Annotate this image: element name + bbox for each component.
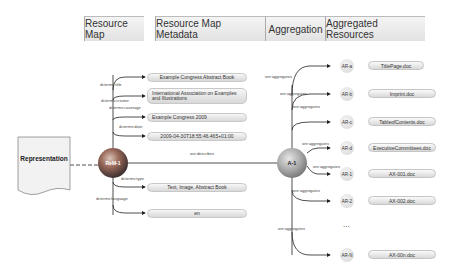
predicate-type: dcterms:type <box>121 177 144 181</box>
metadata-value-creator: International Association on Examples an… <box>147 88 247 104</box>
resource-file-ar-b[interactable]: Imprint.doc <box>368 89 436 98</box>
ellipsis: ... <box>343 220 350 229</box>
predicate-coverage: dcterms:coverage <box>109 106 141 110</box>
resource-file-ar-1[interactable]: AX-001.doc <box>368 169 436 178</box>
metadata-value-type: Text, Image, Abstract Book <box>147 183 247 192</box>
resource-file-ar-2[interactable]: AX-002.doc <box>368 196 436 205</box>
aggregates-label-2: ore:aggregates <box>293 189 320 193</box>
predicate-language: dcterms:language <box>96 197 128 201</box>
resource-map-node[interactable]: ReM-1 <box>98 148 128 178</box>
aggregates-label-b: ore:aggregates <box>280 92 307 96</box>
aggregation-node-label: A-1 <box>288 160 297 166</box>
aggregation-node[interactable]: A-1 <box>277 148 307 178</box>
resource-node-ar-1[interactable]: AR-1 <box>340 167 354 181</box>
aggregates-label-c: ore:aggregates <box>293 105 320 109</box>
representation-label: Representation <box>18 155 70 162</box>
predicate-date: dcterms:date <box>119 125 142 129</box>
resource-file-ar-d[interactable]: ExecutiveCommittees.doc <box>368 143 436 152</box>
aggregates-label-a: ore:aggregates <box>265 75 292 79</box>
resource-file-ar-a[interactable]: TitlePage.doc <box>368 61 424 70</box>
resource-node-ar-n[interactable]: AR-N <box>340 248 354 262</box>
aggregates-label-1: ore:aggregates <box>313 165 340 169</box>
aggregates-label-n: ore:aggregates <box>278 227 305 231</box>
resource-node-ar-c[interactable]: AR-c <box>340 115 354 129</box>
aggregates-label-d: ore:aggregates <box>302 142 329 146</box>
describes-label: ore:describes <box>190 152 214 156</box>
resource-node-ar-2[interactable]: AR-2 <box>340 194 354 208</box>
resource-file-ar-c[interactable]: TableofContents.doc <box>368 117 436 126</box>
resource-node-ar-d[interactable]: AR-d <box>340 141 354 155</box>
metadata-value-date: 2009-04-30T18:55:46.465+01:00 <box>147 132 247 141</box>
predicate-title: dcterms:title <box>100 83 122 87</box>
metadata-value-coverage: Example Congress 2009 <box>147 113 247 122</box>
resource-node-ar-b[interactable]: AR-b <box>340 87 354 101</box>
resource-file-ar-n[interactable]: AX-00n.doc <box>368 250 436 259</box>
resource-map-node-label: ReM-1 <box>105 160 120 166</box>
predicate-creator: dcterms:creator <box>101 99 129 103</box>
metadata-value-language: en <box>147 209 247 218</box>
resource-node-ar-a[interactable]: AR-a <box>340 59 354 73</box>
metadata-value-title: Example Congress Abstract Book <box>147 73 247 82</box>
